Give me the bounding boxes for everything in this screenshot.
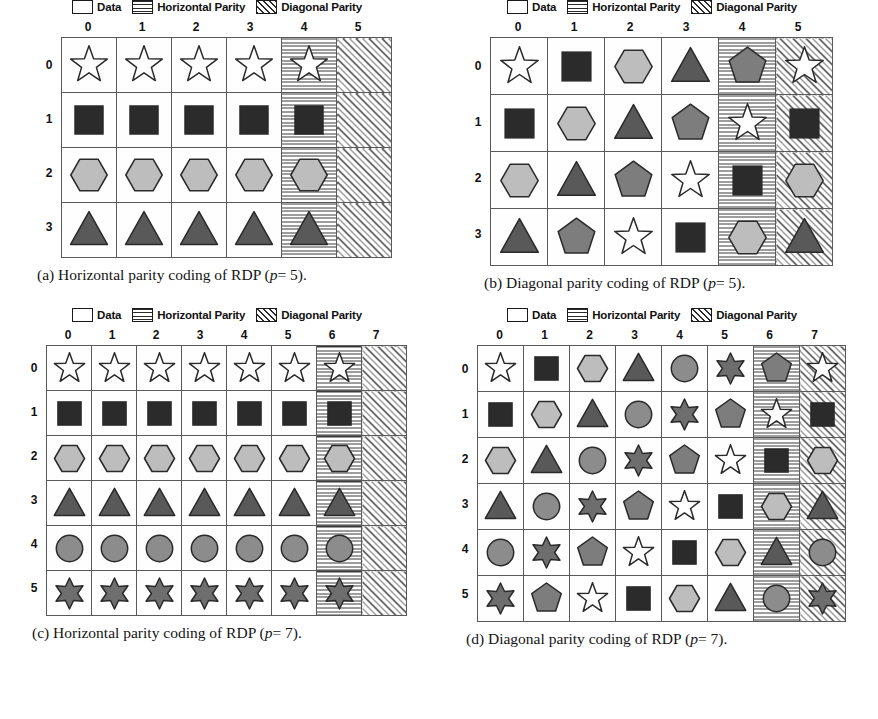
horizontal-parity-cell[interactable] (754, 484, 800, 530)
data-cell[interactable] (227, 481, 272, 526)
horizontal-parity-cell[interactable] (754, 346, 800, 392)
data-cell[interactable] (227, 571, 272, 616)
data-cell[interactable] (92, 391, 137, 436)
data-cell[interactable] (478, 576, 524, 622)
horizontal-parity-cell[interactable] (282, 148, 337, 203)
data-cell[interactable] (605, 152, 662, 209)
data-cell[interactable] (272, 526, 317, 571)
diagonal-parity-cell[interactable] (362, 526, 407, 571)
data-cell[interactable] (117, 38, 172, 93)
diagonal-parity-cell[interactable] (800, 484, 846, 530)
horizontal-parity-cell[interactable] (282, 38, 337, 93)
data-cell[interactable] (92, 571, 137, 616)
horizontal-parity-cell[interactable] (317, 526, 362, 571)
data-cell[interactable] (524, 530, 570, 576)
data-cell[interactable] (117, 93, 172, 148)
data-cell[interactable] (570, 576, 616, 622)
diagonal-parity-cell[interactable] (362, 436, 407, 481)
horizontal-parity-cell[interactable] (282, 93, 337, 148)
data-cell[interactable] (227, 38, 282, 93)
data-cell[interactable] (662, 346, 708, 392)
data-cell[interactable] (616, 346, 662, 392)
data-cell[interactable] (662, 438, 708, 484)
horizontal-parity-cell[interactable] (754, 438, 800, 484)
data-cell[interactable] (227, 346, 272, 391)
data-cell[interactable] (616, 438, 662, 484)
diagonal-parity-cell[interactable] (800, 438, 846, 484)
data-cell[interactable] (605, 95, 662, 152)
diagonal-parity-cell[interactable] (337, 203, 392, 258)
data-cell[interactable] (182, 391, 227, 436)
data-cell[interactable] (524, 346, 570, 392)
data-cell[interactable] (137, 391, 182, 436)
data-cell[interactable] (47, 346, 92, 391)
data-cell[interactable] (62, 93, 117, 148)
data-cell[interactable] (92, 526, 137, 571)
data-cell[interactable] (92, 481, 137, 526)
diagonal-parity-cell[interactable] (337, 148, 392, 203)
data-cell[interactable] (524, 576, 570, 622)
data-cell[interactable] (172, 93, 227, 148)
data-cell[interactable] (478, 438, 524, 484)
data-cell[interactable] (272, 481, 317, 526)
data-cell[interactable] (47, 481, 92, 526)
data-cell[interactable] (662, 152, 719, 209)
data-cell[interactable] (137, 481, 182, 526)
data-cell[interactable] (227, 203, 282, 258)
data-cell[interactable] (708, 392, 754, 438)
data-cell[interactable] (272, 571, 317, 616)
data-cell[interactable] (62, 148, 117, 203)
data-cell[interactable] (616, 530, 662, 576)
data-cell[interactable] (570, 484, 616, 530)
data-cell[interactable] (548, 152, 605, 209)
data-cell[interactable] (708, 576, 754, 622)
data-cell[interactable] (272, 346, 317, 391)
data-cell[interactable] (182, 436, 227, 481)
horizontal-parity-cell[interactable] (754, 392, 800, 438)
data-cell[interactable] (524, 392, 570, 438)
data-cell[interactable] (491, 38, 548, 95)
data-cell[interactable] (172, 148, 227, 203)
data-cell[interactable] (616, 392, 662, 438)
diagonal-parity-cell[interactable] (337, 38, 392, 93)
diagonal-parity-cell[interactable] (362, 391, 407, 436)
data-cell[interactable] (47, 571, 92, 616)
data-cell[interactable] (182, 346, 227, 391)
data-cell[interactable] (62, 203, 117, 258)
data-cell[interactable] (182, 571, 227, 616)
data-cell[interactable] (548, 209, 605, 266)
data-cell[interactable] (491, 152, 548, 209)
data-cell[interactable] (524, 438, 570, 484)
horizontal-parity-cell[interactable] (317, 571, 362, 616)
data-cell[interactable] (616, 484, 662, 530)
data-cell[interactable] (227, 391, 272, 436)
data-cell[interactable] (272, 436, 317, 481)
data-cell[interactable] (548, 95, 605, 152)
data-cell[interactable] (92, 346, 137, 391)
diagonal-parity-cell[interactable] (800, 346, 846, 392)
data-cell[interactable] (227, 93, 282, 148)
data-cell[interactable] (478, 346, 524, 392)
data-cell[interactable] (478, 530, 524, 576)
diagonal-parity-cell[interactable] (776, 152, 833, 209)
data-cell[interactable] (605, 209, 662, 266)
horizontal-parity-cell[interactable] (754, 530, 800, 576)
diagonal-parity-cell[interactable] (776, 95, 833, 152)
diagonal-parity-cell[interactable] (800, 530, 846, 576)
data-cell[interactable] (570, 530, 616, 576)
data-cell[interactable] (92, 436, 137, 481)
data-cell[interactable] (570, 438, 616, 484)
data-cell[interactable] (478, 484, 524, 530)
horizontal-parity-cell[interactable] (719, 152, 776, 209)
data-cell[interactable] (137, 436, 182, 481)
data-cell[interactable] (662, 576, 708, 622)
data-cell[interactable] (616, 576, 662, 622)
data-cell[interactable] (478, 392, 524, 438)
data-cell[interactable] (570, 346, 616, 392)
horizontal-parity-cell[interactable] (317, 346, 362, 391)
diagonal-parity-cell[interactable] (362, 571, 407, 616)
data-cell[interactable] (708, 346, 754, 392)
horizontal-parity-cell[interactable] (754, 576, 800, 622)
horizontal-parity-cell[interactable] (719, 209, 776, 266)
data-cell[interactable] (227, 526, 272, 571)
